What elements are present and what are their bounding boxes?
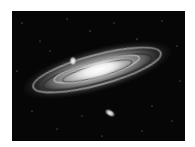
galaxy-illustration bbox=[12, 11, 185, 141]
companion-galaxy-upper bbox=[69, 56, 77, 66]
main-galaxy bbox=[14, 28, 180, 112]
galaxy-photo bbox=[12, 11, 185, 141]
companion-galaxy-lower bbox=[103, 107, 117, 119]
